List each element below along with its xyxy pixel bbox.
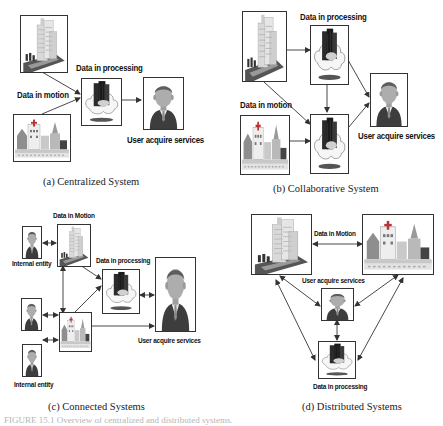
- caption-distributed-systems: (d) Distributed Systems: [302, 401, 402, 412]
- label-data-in-motion: Data in Motion: [314, 230, 356, 237]
- city-building-node: [251, 214, 312, 275]
- user-node: [370, 73, 408, 127]
- internal-entity-middle-node: [21, 298, 42, 331]
- label-data-in-motion: Data in motion: [240, 100, 292, 110]
- label-internal-entity-bottom: Internal entity: [14, 381, 53, 388]
- label-user-acquire-services: User acquire services: [127, 135, 204, 145]
- cloud-server-node: [318, 341, 356, 379]
- label-data-in-motion: Data in motion: [17, 90, 69, 100]
- cloud-server-top-node: [310, 25, 349, 85]
- cloud-server-node: [102, 269, 140, 314]
- cloud-server-node: [81, 78, 122, 126]
- label-internal-entity-top: Internal entity: [12, 260, 51, 267]
- label-data-in-processing: Data in processing: [313, 383, 367, 390]
- caption-centralized-system: (a) Centralized System: [43, 176, 139, 187]
- cloud-server-bottom-node: [310, 114, 349, 174]
- user-large-node: [155, 257, 196, 332]
- town-buildings-node: [13, 114, 71, 162]
- label-data-in-processing: Data in processing: [76, 63, 143, 73]
- figure-caption: FIGURE 15.1 Overview of centralized and …: [4, 415, 233, 425]
- caption-connected-systems: (c) Connected Systems: [48, 401, 145, 412]
- label-user-acquire-services: User acquire services: [302, 277, 365, 284]
- caption-collaborative-system: (b) Collaborative System: [273, 183, 379, 194]
- internal-entity-top-node: [22, 226, 42, 259]
- label-data-in-processing: Data in processing: [96, 257, 150, 264]
- label-data-in-motion: Data in Motion: [53, 212, 95, 219]
- internal-entity-bottom-node: [22, 344, 42, 377]
- town-buildings-node: [240, 115, 290, 175]
- city-building-node: [20, 15, 68, 73]
- town-buildings-node: [362, 214, 434, 275]
- city-building-node: [242, 11, 287, 82]
- label-user-acquire-services: User acquire services: [138, 337, 201, 344]
- user-node: [321, 288, 354, 321]
- town-buildings-node: [59, 312, 92, 352]
- user-node: [143, 77, 184, 130]
- city-building-node: [57, 224, 91, 267]
- label-user-acquire-services: User acquire services: [358, 131, 435, 141]
- label-data-in-processing: Data in processing: [300, 12, 367, 22]
